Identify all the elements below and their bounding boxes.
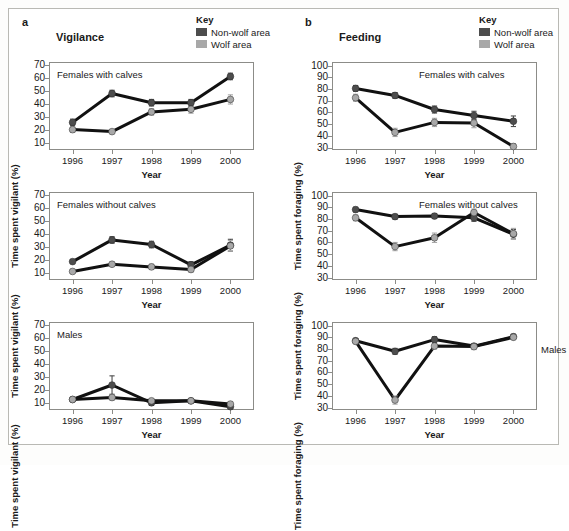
y-tick-mark xyxy=(328,372,332,373)
y-tick-mark xyxy=(328,326,332,327)
y-tick-label: 30 xyxy=(304,403,328,413)
x-tick-mark xyxy=(356,410,357,414)
x-tick-label: 1997 xyxy=(375,416,415,426)
y-axis-label: Time spent foraging (%) xyxy=(292,421,303,531)
y-tick-mark xyxy=(328,349,332,350)
y-tick-label: 90 xyxy=(304,332,328,342)
x-tick-label: 1996 xyxy=(336,416,376,426)
y-tick-label: 40 xyxy=(304,391,328,401)
y-tick-label: 70 xyxy=(304,356,328,366)
x-tick-label: 1999 xyxy=(454,416,494,426)
y-tick-label: 100 xyxy=(304,321,328,331)
x-tick-label: 2000 xyxy=(493,416,533,426)
x-axis-label: Year xyxy=(405,429,465,440)
plot-area xyxy=(332,322,537,410)
y-tick-label: 50 xyxy=(304,379,328,389)
x-tick-mark xyxy=(513,410,514,414)
y-tick-mark xyxy=(328,408,332,409)
group-label: Males xyxy=(541,344,566,355)
y-tick-mark xyxy=(328,361,332,362)
y-tick-label: 80 xyxy=(304,344,328,354)
x-tick-mark xyxy=(435,410,436,414)
y-tick-label: 60 xyxy=(304,367,328,377)
x-tick-mark xyxy=(395,410,396,414)
y-tick-mark xyxy=(328,396,332,397)
x-tick-mark xyxy=(474,410,475,414)
y-tick-mark xyxy=(328,337,332,338)
x-tick-label: 1998 xyxy=(415,416,455,426)
y-tick-mark xyxy=(328,384,332,385)
